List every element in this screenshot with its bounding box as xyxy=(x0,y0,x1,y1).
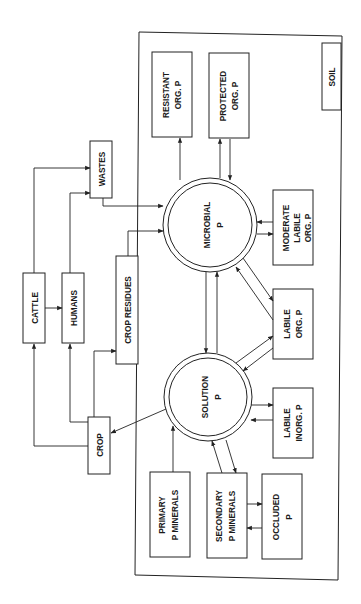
humans-label: HUMANS xyxy=(70,289,79,325)
arrow-crop-cattle xyxy=(34,344,88,446)
resistant-line1: RESISTANT xyxy=(162,72,171,118)
microbial-line2: P xyxy=(216,222,225,228)
moderate-line2: LABILE xyxy=(293,213,302,243)
protected-org-p-box xyxy=(209,53,249,138)
moderate-line1: MODERATE xyxy=(282,204,291,251)
arrow-humans-wastes xyxy=(70,193,90,273)
primary-p-minerals-box xyxy=(150,472,190,557)
resistant-line2: ORG. P xyxy=(174,80,183,109)
protected-line1: PROTECTED xyxy=(219,71,228,122)
wastes-label: WASTES xyxy=(98,151,107,186)
solution-line2: P xyxy=(214,394,223,400)
secondary-p-minerals-box xyxy=(207,473,247,558)
primary-line1: PRIMARY xyxy=(158,496,167,534)
labile-inorg-p-box xyxy=(273,388,313,458)
secondary-line1: SECONDARY xyxy=(215,489,224,542)
solution-line1: SOLUTION xyxy=(201,376,210,418)
secondary-line2: P MINERALS xyxy=(228,490,237,541)
crop-label: CROP xyxy=(96,433,105,457)
occluded-line1: OCCLUDED xyxy=(272,494,281,540)
primary-line2: P MINERALS xyxy=(171,489,180,540)
arrow-crop-crop-residues xyxy=(94,351,116,417)
microbial-line1: MICROBIAL xyxy=(203,202,212,248)
occluded-line2: P xyxy=(285,514,294,520)
cattle-label: CATTLE xyxy=(31,292,40,324)
labile-org-line2: ORG. P xyxy=(295,309,304,338)
soil-label: SOIL xyxy=(328,67,337,86)
labile-inorg-line1: LABILE xyxy=(283,408,292,438)
arrow-cattle-wastes xyxy=(34,168,90,273)
labile-org-p-box xyxy=(273,289,313,359)
moderate-line3: ORG. P xyxy=(304,213,313,242)
resistant-org-p-box xyxy=(152,52,192,137)
protected-line2: ORG. P xyxy=(231,81,240,110)
occluded-p-box xyxy=(262,474,302,559)
labile-inorg-line2: INORG. P xyxy=(295,404,304,441)
labile-org-line1: LABILE xyxy=(283,309,292,339)
arrow-crop-humans xyxy=(70,344,88,422)
crop-residues-label: CROP RESIDUES xyxy=(124,276,133,344)
phosphorus-cycle-diagram: SOIL RESISTANT ORG. P PROTECTED ORG. P M… xyxy=(0,0,361,604)
